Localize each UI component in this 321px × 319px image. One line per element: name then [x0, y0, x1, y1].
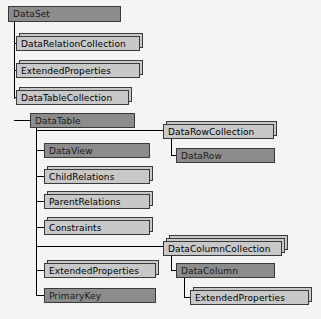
node-childrelations-face: ChildRelations	[44, 169, 150, 184]
connector-branch-4	[36, 130, 170, 131]
node-datatable-extendedproperties-face: ExtendedProperties	[44, 263, 156, 278]
node-datacolumn-label: DataColumn	[177, 266, 238, 276]
connector-stem-datacolumn	[184, 278, 185, 298]
node-datacolumncollection[interactable]: DataColumnCollection	[163, 241, 282, 256]
node-datacolumn-face: DataColumn	[176, 263, 275, 278]
connector-stem-dataset	[14, 22, 15, 99]
connector-branch-9	[36, 246, 170, 247]
node-parentrelations-face: ParentRelations	[44, 194, 150, 209]
node-childrelations[interactable]: ChildRelations	[44, 169, 150, 184]
node-datacolumn-extendedproperties-label: ExtendedProperties	[191, 293, 285, 303]
connector-stem-datarowcollection	[171, 139, 172, 156]
node-constraints-face: Constraints	[44, 220, 150, 235]
node-datarowcollection-label: DataRowCollection	[164, 127, 254, 137]
node-dataset-extendedproperties[interactable]: ExtendedProperties	[16, 63, 140, 78]
node-dataset-face: DataSet	[8, 6, 121, 22]
node-dataset-extendedproperties-face: ExtendedProperties	[16, 63, 140, 78]
node-primarykey-face: PrimaryKey	[44, 288, 156, 303]
node-parentrelations[interactable]: ParentRelations	[44, 194, 150, 209]
node-datatable-extendedproperties[interactable]: ExtendedProperties	[44, 263, 156, 278]
diagram-canvas: DataSetDataRelationCollectionExtendedPro…	[0, 0, 321, 319]
node-primarykey-label: PrimaryKey	[45, 291, 101, 301]
node-constraints[interactable]: Constraints	[44, 220, 150, 235]
node-datarowcollection[interactable]: DataRowCollection	[163, 124, 274, 139]
node-dataset-extendedproperties-label: ExtendedProperties	[17, 66, 111, 76]
node-datatable[interactable]: DataTable	[30, 113, 135, 128]
node-datatablecollection-label: DataTableCollection	[17, 93, 112, 103]
node-datatable-extendedproperties-label: ExtendedProperties	[45, 266, 139, 276]
node-datacolumncollection-face: DataColumnCollection	[163, 241, 282, 256]
node-dataview[interactable]: DataView	[44, 143, 150, 158]
node-childrelations-label: ChildRelations	[45, 172, 114, 182]
node-datatable-label: DataTable	[31, 116, 81, 126]
node-datarowcollection-face: DataRowCollection	[163, 124, 274, 139]
node-datatablecollection-face: DataTableCollection	[16, 90, 129, 105]
node-datatable-face: DataTable	[30, 113, 135, 128]
node-dataset-label: DataSet	[9, 9, 50, 19]
node-datacolumn-extendedproperties-face: ExtendedProperties	[190, 290, 309, 305]
node-datacolumn[interactable]: DataColumn	[176, 263, 275, 278]
node-datarelationcollection-face: DataRelationCollection	[16, 36, 140, 51]
node-datarow-label: DataRow	[177, 151, 222, 161]
node-primarykey[interactable]: PrimaryKey	[44, 288, 156, 303]
node-datatablecollection[interactable]: DataTableCollection	[16, 90, 129, 105]
node-datacolumncollection-label: DataColumnCollection	[164, 244, 270, 254]
node-parentrelations-label: ParentRelations	[45, 197, 121, 207]
node-dataview-face: DataView	[44, 143, 150, 158]
connector-stem-datacolumncollection	[171, 256, 172, 271]
node-datarelationcollection[interactable]: DataRelationCollection	[16, 36, 140, 51]
node-dataset[interactable]: DataSet	[8, 6, 121, 22]
node-dataview-label: DataView	[45, 146, 93, 156]
node-datarow[interactable]: DataRow	[176, 148, 275, 163]
node-datarow-face: DataRow	[176, 148, 275, 163]
node-constraints-label: Constraints	[45, 223, 101, 233]
node-datacolumn-extendedproperties[interactable]: ExtendedProperties	[190, 290, 309, 305]
node-datarelationcollection-label: DataRelationCollection	[17, 39, 126, 49]
